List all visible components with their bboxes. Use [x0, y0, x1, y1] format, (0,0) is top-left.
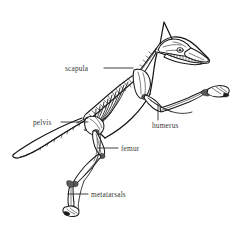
- scapula-bone: [133, 69, 150, 100]
- label-scapula: scapula: [65, 64, 89, 73]
- skeleton-diagram-figure: scapula pelvis humerus femur metatarsals: [0, 0, 233, 229]
- caudal-vertebrae: [20, 121, 84, 157]
- hindleg-bones: [63, 131, 105, 216]
- label-metatarsals: metatarsals: [91, 190, 126, 199]
- skeleton-illustration: scapula pelvis humerus femur metatarsals: [0, 0, 233, 229]
- skull-bones: [158, 39, 208, 65]
- label-humerus: humerus: [152, 121, 179, 130]
- foreleg-bones: [144, 86, 229, 114]
- label-femur: femur: [121, 144, 140, 153]
- part-labels: scapula pelvis humerus femur metatarsals: [33, 64, 179, 199]
- pelvis-bone: [77, 116, 104, 135]
- label-pelvis: pelvis: [33, 118, 52, 127]
